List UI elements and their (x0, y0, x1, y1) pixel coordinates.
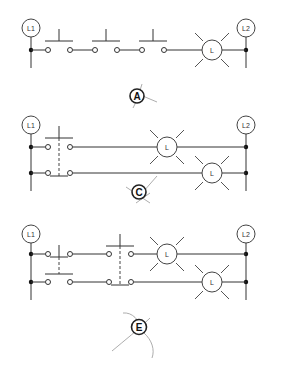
pushbutton-no-1 (45, 29, 73, 53)
lamp-label: L (210, 170, 214, 177)
svg-text:A: A (133, 91, 140, 102)
lamp-label: L (165, 144, 169, 151)
pushbutton-double-pole (45, 126, 73, 176)
circuit-e: L1 L2 (22, 225, 255, 358)
pushbutton-double-pole-2 (106, 234, 134, 285)
circuit-a: L1 L2 (22, 19, 255, 108)
rail-l1-label: L1 (27, 231, 35, 238)
rail-l2-label: L2 (242, 231, 250, 238)
rail-l1-label: L1 (27, 122, 35, 129)
circuit-c: L1 L2 (22, 116, 255, 203)
lamp-label: L (210, 279, 214, 286)
pushbutton-no-3 (139, 29, 167, 53)
rail-l2-label: L2 (242, 122, 250, 129)
circuit-label-e[interactable]: E (112, 313, 153, 358)
rail-l1-label: L1 (27, 25, 35, 32)
ladder-diagrams: L1 L2 (0, 0, 287, 367)
svg-text:E: E (136, 322, 143, 333)
svg-text:C: C (135, 187, 142, 198)
pushbutton-no-2 (92, 29, 120, 53)
lamp-label: L (210, 47, 214, 54)
rail-l2-label: L2 (242, 25, 250, 32)
lamp-label: L (165, 251, 169, 258)
circuit-label-c[interactable]: C (126, 176, 157, 203)
pushbutton-double-pole-1 (45, 245, 73, 285)
circuit-label-a[interactable]: A (130, 84, 157, 108)
